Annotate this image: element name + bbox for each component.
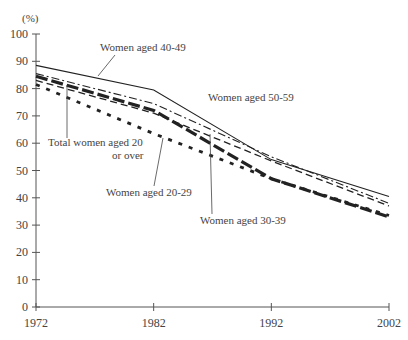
y-axis-unit-label: (%) — [22, 12, 39, 25]
annotation-women-50-59: Women aged 50-59 — [208, 91, 294, 103]
x-tick-label: 1992 — [259, 316, 283, 330]
y-tick-label: 80 — [16, 82, 28, 96]
annotations: Women aged 40-49 Women aged 50-59 Total … — [48, 41, 294, 226]
y-tick-label: 40 — [16, 191, 28, 205]
y-tick-label: 50 — [16, 164, 28, 178]
y-tick-label: 100 — [10, 27, 28, 41]
annotation-total-women-line1: Total women aged 20 — [48, 136, 143, 148]
annotation-total-women-line2: or over — [112, 149, 144, 161]
x-tick-label: 1982 — [142, 316, 166, 330]
annotation-women-30-39: Women aged 30-39 — [200, 214, 286, 226]
y-tick-label: 0 — [22, 300, 28, 314]
annotation-women-20-29: Women aged 20-29 — [106, 186, 192, 198]
x-axis: 1972198219922002 — [24, 303, 401, 330]
y-axis: 0102030405060708090100 — [10, 27, 40, 314]
line-chart: (%) 0102030405060708090100 1972198219922… — [0, 0, 408, 340]
y-tick-label: 10 — [16, 273, 28, 287]
y-tick-label: 30 — [16, 218, 28, 232]
leader-line-20-29 — [154, 138, 163, 186]
y-tick-label: 90 — [16, 54, 28, 68]
y-tick-label: 20 — [16, 245, 28, 259]
annotation-women-40-49: Women aged 40-49 — [100, 41, 186, 53]
series-line — [36, 65, 389, 196]
leader-line-40-49 — [98, 55, 115, 76]
leader-line-30-39 — [210, 134, 212, 214]
y-tick-label: 60 — [16, 136, 28, 150]
x-tick-label: 1972 — [24, 316, 48, 330]
series-line — [36, 85, 389, 216]
y-tick-label: 70 — [16, 109, 28, 123]
x-tick-label: 2002 — [377, 316, 401, 330]
